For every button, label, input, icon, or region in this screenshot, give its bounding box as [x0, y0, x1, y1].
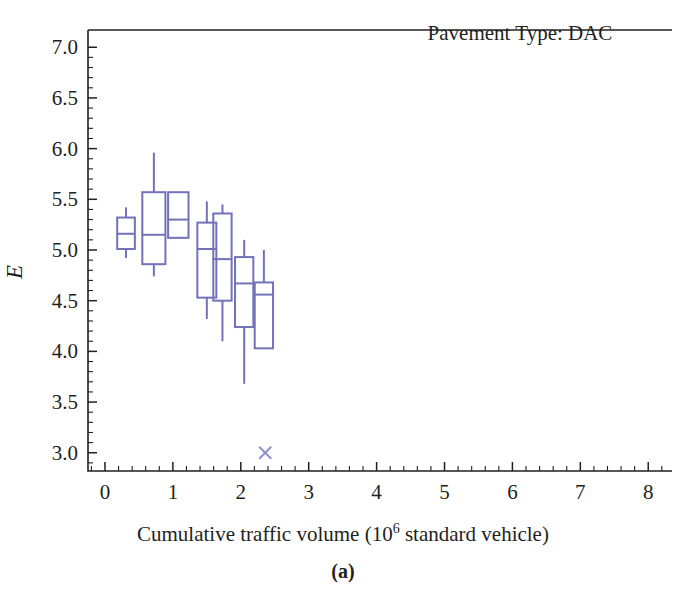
x-tick-label: 1 — [168, 480, 179, 504]
x-tick-label: 7 — [575, 480, 586, 504]
boxplot-box-6 — [235, 240, 253, 384]
y-axis-label: E — [2, 265, 27, 280]
x-tick-label: 2 — [236, 480, 247, 504]
outlier-markers — [259, 447, 271, 459]
box-body — [255, 282, 273, 348]
axes-group — [88, 30, 672, 471]
x-axis-label-suffix: standard vehicle) — [400, 522, 549, 546]
boxplot-series — [117, 153, 273, 384]
y-tick-label: 5.0 — [52, 238, 78, 262]
x-tick-label: 4 — [371, 480, 382, 504]
y-tick-label: 7.0 — [52, 35, 78, 59]
y-tick-label: 4.5 — [52, 289, 78, 313]
boxplot-box-3 — [168, 192, 188, 238]
boxplot-chart: 3.03.54.04.55.05.56.06.57.0012345678 Pav… — [0, 0, 685, 590]
box-body — [142, 192, 165, 264]
x-tick-label: 8 — [643, 480, 654, 504]
x-tick-label: 0 — [100, 480, 111, 504]
tick-labels-group: 3.03.54.04.55.05.56.06.57.0012345678 — [52, 35, 654, 504]
y-tick-label: 6.0 — [52, 137, 78, 161]
box-body — [168, 192, 188, 238]
boxplot-box-1 — [117, 207, 135, 258]
y-tick-label: 5.5 — [52, 187, 78, 211]
x-axis-label-exponent: 6 — [393, 521, 400, 536]
y-tick-label: 4.0 — [52, 339, 78, 363]
axis-spines — [88, 30, 672, 471]
x-axis-label: Cumulative traffic volume (106 standard … — [137, 521, 549, 546]
boxplot-box-7 — [255, 250, 273, 348]
x-tick-label: 3 — [303, 480, 314, 504]
x-tick-label: 6 — [507, 480, 518, 504]
outlier-outlier-1 — [259, 447, 271, 459]
figure-subcaption: (a) — [331, 560, 354, 583]
ticks-group — [88, 47, 662, 471]
figure-panel: 3.03.54.04.55.05.56.06.57.0012345678 Pav… — [0, 0, 685, 590]
y-tick-label: 6.5 — [52, 86, 78, 110]
chart-annotation-pavement-type: Pavement Type: DAC — [428, 21, 613, 45]
boxplot-box-2 — [142, 153, 165, 277]
y-tick-label: 3.5 — [52, 390, 78, 414]
x-axis-label-prefix: Cumulative traffic volume (10 — [137, 522, 393, 546]
y-tick-label: 3.0 — [52, 441, 78, 465]
x-tick-label: 5 — [439, 480, 450, 504]
box-body — [235, 257, 253, 327]
